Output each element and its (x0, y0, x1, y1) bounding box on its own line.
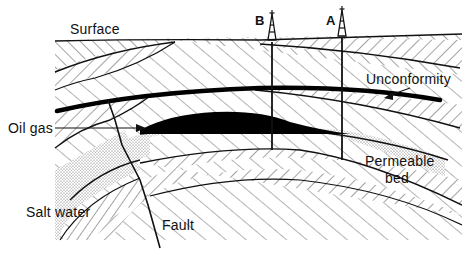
derrick-a-icon (338, 6, 346, 36)
strata (55, 30, 462, 245)
label-fault: Fault (162, 218, 194, 232)
label-well-a: A (326, 14, 335, 27)
label-salt-water: Salt water (26, 205, 90, 219)
label-permeable: Permeable (365, 154, 435, 168)
derrick-b-icon (268, 10, 276, 40)
label-surface: Surface (70, 22, 120, 36)
label-unconformity: Unconformity (366, 72, 451, 86)
geological-cross-section (0, 0, 462, 263)
label-oil-gas: Oil gas (8, 121, 53, 135)
label-well-b: B (255, 14, 264, 27)
label-bed: bed (385, 171, 409, 185)
